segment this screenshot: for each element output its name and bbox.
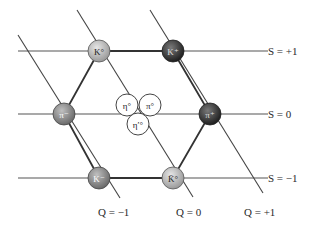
particle-eta-prime: η′° <box>127 113 149 135</box>
svg-text:K̄°: K̄° <box>168 174 178 184</box>
svg-text:π°: π° <box>146 101 155 111</box>
svg-text:π⁻: π⁻ <box>59 110 69 120</box>
svg-text:π⁺: π⁺ <box>205 110 215 120</box>
particle-k0: K° <box>88 40 110 62</box>
svg-text:η′°: η′° <box>133 120 144 130</box>
particle-k-plus: K⁺ <box>162 40 184 62</box>
svg-text:K°: K° <box>94 47 104 57</box>
label-q-minus1: Q = −1 <box>98 206 129 218</box>
label-s-minus1: S = −1 <box>268 172 298 184</box>
svg-text:K⁻: K⁻ <box>93 174 105 184</box>
particle-k0-bar: K̄° <box>162 167 184 189</box>
particle-k-minus: K⁻ <box>88 167 110 189</box>
particle-pi-plus: π⁺ <box>199 103 221 125</box>
svg-text:η°: η° <box>123 101 132 111</box>
q-plus1-line <box>150 10 263 193</box>
label-s-zero: S = 0 <box>268 108 292 120</box>
meson-nonet-diagram: K° K⁺ π⁻ π⁺ K⁻ K̄° η° π° η′° S = +1 S = … <box>0 0 320 234</box>
particle-pi0: π° <box>139 94 161 116</box>
label-q-zero: Q = 0 <box>176 206 202 218</box>
label-s-plus1: S = +1 <box>268 45 298 57</box>
label-q-plus1: Q = +1 <box>244 206 275 218</box>
svg-text:K⁺: K⁺ <box>167 47 179 57</box>
particle-eta0: η° <box>116 94 138 116</box>
particle-pi-minus: π⁻ <box>53 103 75 125</box>
